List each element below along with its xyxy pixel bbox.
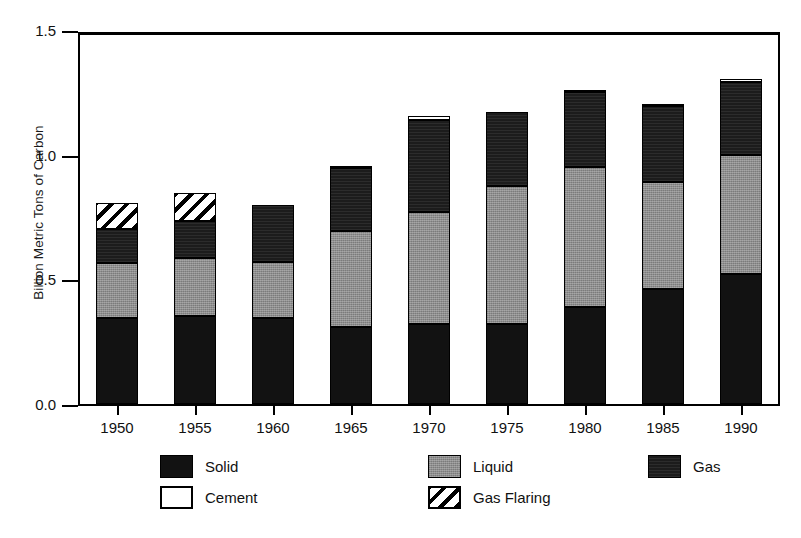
legend-label: Cement bbox=[205, 489, 258, 506]
bar-segment-solid bbox=[720, 274, 762, 404]
bar-segment-cement bbox=[564, 90, 606, 92]
bar-1990 bbox=[720, 30, 762, 404]
bar-segment-gas bbox=[642, 106, 684, 182]
bar-segment-liquid bbox=[252, 262, 294, 318]
y-axis-tick bbox=[62, 280, 78, 282]
bar-1985 bbox=[642, 30, 684, 404]
legend-swatch-liquid-icon bbox=[428, 455, 461, 478]
legend-item-liquid: Liquid bbox=[428, 455, 513, 478]
legend-label: Gas bbox=[693, 458, 721, 475]
bar-segment-liquid bbox=[96, 263, 138, 318]
bar-segment-gas bbox=[330, 168, 372, 230]
bar-1975 bbox=[486, 30, 528, 404]
y-axis-tick bbox=[62, 156, 78, 158]
plot-area bbox=[78, 32, 780, 406]
x-axis-tick bbox=[195, 406, 197, 415]
bar-segment-solid bbox=[174, 316, 216, 405]
x-axis-tick bbox=[273, 406, 275, 415]
bar-segment-gas bbox=[252, 205, 294, 262]
bar-1980 bbox=[564, 30, 606, 404]
y-axis-tick-label: 1.0 bbox=[0, 147, 56, 164]
x-axis-tick-label: 1965 bbox=[311, 419, 391, 436]
bar-1960 bbox=[252, 30, 294, 404]
legend-swatch-gas-icon bbox=[648, 455, 681, 478]
y-axis-tick-label: 0.0 bbox=[0, 396, 56, 413]
bar-1950 bbox=[96, 30, 138, 404]
y-axis-tick-label: 1.5 bbox=[0, 22, 56, 39]
bar-segment-cement bbox=[642, 104, 684, 106]
legend-swatch-flaring-icon bbox=[428, 486, 461, 509]
bar-segment-solid bbox=[408, 324, 450, 404]
x-axis-tick-label: 1960 bbox=[233, 419, 313, 436]
bar-segment-solid bbox=[564, 307, 606, 404]
bar-segment-gas bbox=[564, 92, 606, 167]
bar-segment-gas bbox=[720, 82, 762, 154]
bar-segment-gas bbox=[96, 229, 138, 263]
legend-swatch-cement-icon bbox=[160, 486, 193, 509]
bar-segment-cement bbox=[408, 116, 450, 120]
y-axis-tick-label: 0.5 bbox=[0, 271, 56, 288]
x-axis-tick-label: 1985 bbox=[623, 419, 703, 436]
bar-segment-liquid bbox=[642, 182, 684, 289]
bar-segment-flaring bbox=[174, 193, 216, 220]
x-axis-tick bbox=[117, 406, 119, 415]
bar-segment-solid bbox=[96, 318, 138, 404]
legend-label: Liquid bbox=[473, 458, 513, 475]
legend-item-flaring: Gas Flaring bbox=[428, 486, 551, 509]
x-axis-tick bbox=[741, 406, 743, 415]
bar-segment-solid bbox=[486, 324, 528, 404]
bar-segment-solid bbox=[642, 289, 684, 404]
x-axis-tick bbox=[351, 406, 353, 415]
carbon-emissions-stacked-bar-chart: Billion Metric Tons of Carbon 0.00.51.01… bbox=[0, 0, 801, 538]
bar-segment-solid bbox=[330, 327, 372, 404]
x-axis-tick bbox=[585, 406, 587, 415]
bar-1955 bbox=[174, 30, 216, 404]
legend-swatch-solid-icon bbox=[160, 455, 193, 478]
legend-label: Solid bbox=[205, 458, 238, 475]
y-axis-tick bbox=[62, 31, 78, 33]
bar-segment-gas bbox=[486, 112, 528, 186]
bar-segment-cement bbox=[330, 166, 372, 168]
legend-item-gas: Gas bbox=[648, 455, 721, 478]
bar-segment-solid bbox=[252, 318, 294, 404]
chart-legend: SolidLiquidGasCementGas Flaring bbox=[0, 455, 801, 525]
bar-segment-liquid bbox=[720, 155, 762, 275]
legend-item-solid: Solid bbox=[160, 455, 238, 478]
x-axis-tick-label: 1970 bbox=[389, 419, 469, 436]
bar-segment-liquid bbox=[564, 167, 606, 307]
bar-segment-gas bbox=[408, 120, 450, 212]
bar-segment-flaring bbox=[96, 203, 138, 229]
bar-segment-cement bbox=[720, 79, 762, 83]
bar-segment-liquid bbox=[408, 212, 450, 324]
bar-1965 bbox=[330, 30, 372, 404]
legend-label: Gas Flaring bbox=[473, 489, 551, 506]
x-axis-tick bbox=[663, 406, 665, 415]
x-axis-tick-label: 1975 bbox=[467, 419, 547, 436]
y-axis-title: Billion Metric Tons of Carbon bbox=[31, 83, 46, 343]
x-axis-tick bbox=[429, 406, 431, 415]
x-axis-tick-label: 1955 bbox=[155, 419, 235, 436]
x-axis-tick-label: 1980 bbox=[545, 419, 625, 436]
bar-1970 bbox=[408, 30, 450, 404]
bar-segment-liquid bbox=[486, 186, 528, 324]
y-axis-tick bbox=[62, 405, 78, 407]
x-axis-tick-label: 1950 bbox=[77, 419, 157, 436]
bar-segment-liquid bbox=[330, 231, 372, 327]
x-axis-tick bbox=[507, 406, 509, 415]
x-axis-tick-label: 1990 bbox=[701, 419, 781, 436]
bar-segment-gas bbox=[174, 221, 216, 258]
bar-segment-liquid bbox=[174, 258, 216, 315]
legend-item-cement: Cement bbox=[160, 486, 258, 509]
